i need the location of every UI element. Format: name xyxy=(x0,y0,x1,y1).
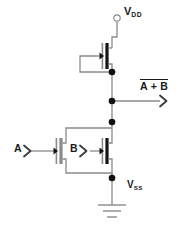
circuit-diagram-canvas: VDD VSS A + B A B xyxy=(0,0,187,226)
wire-vdd-to-pmos-source xyxy=(112,22,117,49)
vss-label: VSS xyxy=(127,180,143,190)
nmos-b-channel-bar xyxy=(105,138,108,164)
vdd-subscript: DD xyxy=(131,11,142,18)
node-nmos-drain xyxy=(109,119,116,126)
vss-subscript: SS xyxy=(134,184,143,191)
input-a-label: A xyxy=(14,143,22,154)
vss-symbol: V xyxy=(127,179,134,190)
schematic-svg xyxy=(0,0,187,226)
input-a-chevron-icon xyxy=(24,146,31,157)
output-label: A + B xyxy=(140,79,168,92)
vdd-terminal-icon xyxy=(114,15,120,21)
nmos-a-channel-bar xyxy=(59,138,62,164)
nmos-a-source-wire xyxy=(63,159,112,173)
node-pmos-drain xyxy=(109,69,116,76)
vdd-label: VDD xyxy=(124,6,142,17)
pmos-channel-bar xyxy=(105,43,108,69)
output-chevron-icon xyxy=(160,96,167,107)
input-b-label: B xyxy=(70,143,78,154)
input-b-chevron-icon xyxy=(80,146,87,157)
nmos-a-drain-wire xyxy=(63,128,112,143)
output-expression: A + B xyxy=(140,79,168,92)
node-output-tap xyxy=(109,98,116,105)
node-nmos-source xyxy=(109,175,116,182)
